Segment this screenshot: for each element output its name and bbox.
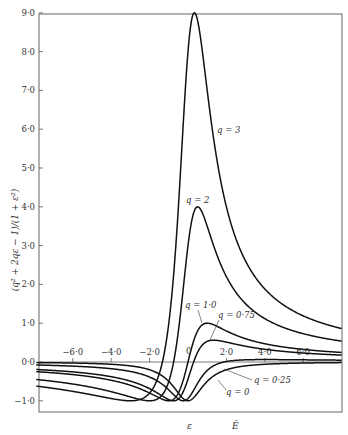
y-tick-label: 2·0	[21, 279, 35, 289]
leader-q1	[198, 310, 202, 323]
y-tick-label: 9·0	[21, 8, 35, 18]
leader-q0	[218, 380, 226, 390]
x-tick-label: −4·0	[101, 347, 122, 357]
label-zero-x: 0	[186, 346, 191, 356]
curve-0_25	[36, 360, 341, 401]
curves	[36, 13, 341, 401]
y-tick-label: 3·0	[21, 241, 35, 251]
y-tick-label: 5·0	[21, 163, 35, 173]
y-tick-label: 4·0	[21, 202, 35, 212]
y-tick-label: 6·0	[21, 124, 35, 134]
y-axis-label: (q² + 2qε − 1)/(1 + ε²)	[10, 188, 20, 291]
x-axis-label-epsilon: ε	[187, 421, 192, 431]
x-tick-label: −6·0	[62, 347, 83, 357]
y-tick-label: 7·0	[21, 85, 35, 95]
y-tick-label: 1·0	[21, 318, 35, 328]
leader-q075	[210, 320, 219, 340]
label-q0: q = 0	[226, 387, 250, 397]
y-tick-label: 8·0	[21, 47, 35, 57]
label-q2: q = 2	[186, 195, 209, 205]
y-tick-label: 0·0	[21, 357, 35, 367]
leader-q025	[224, 369, 252, 380]
y-tick-label: −1·0	[14, 396, 35, 406]
x-axis-label-E: Ē	[231, 420, 239, 431]
label-q3: q = 3	[217, 125, 240, 135]
label-q075: q = 0·75	[218, 310, 255, 320]
x-tick-label: −2·0	[139, 347, 160, 357]
curve-0	[36, 363, 341, 401]
curve-3	[36, 13, 341, 401]
fano-profile-chart: 9·08·07·06·05·04·03·02·01·00·0−1·0 −6·0−…	[0, 0, 348, 435]
label-q025: q = 0·25	[254, 375, 291, 385]
label-q1: q = 1·0	[185, 300, 217, 310]
x-tick-label: 2·0	[220, 347, 234, 357]
